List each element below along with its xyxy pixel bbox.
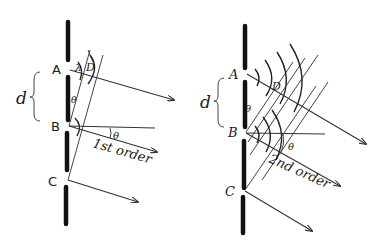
right-spacing-label-d: d	[200, 92, 211, 112]
left-slit-label-b: B	[51, 119, 60, 134]
right-spacing-brace-icon	[214, 78, 224, 127]
right-angle-label-wedge: θ	[245, 103, 251, 114]
left-spacing-label-d: d	[16, 88, 27, 108]
left-panel-first-order: A B C d λ D θ θ 1st order	[16, 22, 174, 224]
diffraction-grating-figure: A B C d λ D θ θ 1st order	[0, 0, 388, 248]
right-path-difference-label: D	[271, 80, 281, 93]
right-panel-second-order: A B C d D θ θ 2nd order	[200, 26, 366, 233]
left-order-label: 1st order	[91, 135, 154, 166]
right-slit-label-c: C	[225, 184, 235, 199]
left-angle-label-wedge: θ	[71, 95, 77, 105]
left-slit-label-a: A	[52, 62, 61, 77]
right-slit-label-a: A	[228, 67, 238, 82]
left-wavelength-label: λ	[74, 62, 81, 73]
right-grating-barrier	[243, 26, 245, 233]
left-angle-label-ray: θ	[113, 130, 119, 141]
right-angle-label-ray: θ	[288, 141, 294, 152]
right-slit-label-b: B	[227, 125, 238, 140]
right-order-label: 2nd order	[266, 151, 333, 192]
left-spacing-brace-icon	[30, 72, 40, 121]
left-path-difference-label: D	[85, 61, 95, 74]
left-slit-label-c: C	[48, 174, 57, 189]
left-grating-barrier	[66, 22, 68, 224]
